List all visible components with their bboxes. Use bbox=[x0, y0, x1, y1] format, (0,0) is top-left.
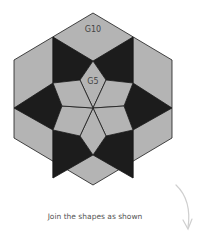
curved-arrow-icon bbox=[176, 185, 192, 229]
label-g5: G5 bbox=[87, 77, 98, 86]
caption: Join the shapes as shown bbox=[0, 212, 190, 221]
label-g10: G10 bbox=[85, 25, 101, 34]
hexagon-star-diagram: G10 G5 bbox=[0, 0, 198, 239]
